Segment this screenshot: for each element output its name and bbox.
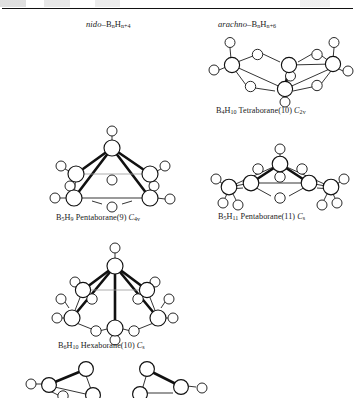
caption-b6h10-name: Hexaborane(10)	[81, 341, 135, 350]
hydrogen-terminal	[209, 65, 219, 75]
hydrogen-terminal	[275, 144, 285, 154]
boron-atom	[79, 362, 94, 377]
hydrogen-terminal	[211, 174, 221, 184]
hydrogen-terminal	[218, 198, 228, 208]
hydrogen-terminal	[168, 313, 178, 323]
structure-b5h9	[46, 126, 178, 216]
caption-b5h9: B5H9 Pentaborane(9) C4v	[56, 213, 140, 222]
structure-b6h10	[50, 242, 180, 342]
hydrogen-terminal	[165, 194, 175, 204]
structure-bottom-left-partial	[22, 362, 117, 398]
boron-atom	[133, 387, 148, 398]
hydrogen-terminal	[225, 38, 235, 48]
caption-b5h11-pointgroup-sub: s	[303, 215, 305, 221]
caption-b5h9-h-sub: 9	[71, 216, 74, 222]
hydrogen-bridge	[129, 326, 139, 336]
hydrogen-terminal	[107, 126, 117, 136]
scan-artifact	[0, 0, 355, 7]
boron-atom	[140, 362, 155, 377]
boron-atom	[107, 320, 123, 336]
caption-b6h10-h-sub: 10	[73, 344, 79, 350]
hydrogen-terminal	[26, 379, 36, 389]
hydrogen-bridge	[245, 81, 255, 91]
caption-b4h10-pointgroup-sub: 2v	[300, 109, 306, 115]
caption-b6h10-pointgroup-sub: s	[142, 344, 144, 350]
hydrogen-terminal	[160, 161, 170, 171]
structure-bottom-right-partial	[122, 362, 217, 398]
boron-atom	[174, 380, 189, 395]
column-heading-nido: nido–BnHn+4	[86, 19, 131, 29]
hydrogen-terminal	[317, 200, 327, 210]
boron-atom	[301, 175, 317, 191]
boron-atom	[243, 175, 259, 191]
caption-b5h11: B5H11 Pentaborane(11) Cs	[218, 212, 305, 221]
boron-atom	[86, 388, 101, 398]
structure-b4h10	[206, 34, 351, 104]
boron-atom	[142, 166, 158, 182]
boron-atom	[281, 57, 296, 72]
hydrogen-terminal	[332, 198, 342, 208]
hydrogen-bridge	[275, 172, 285, 182]
hydrogen-bridge	[275, 193, 285, 203]
caption-b4h10-name: Tetraborane(10)	[239, 106, 292, 115]
hydrogen-bridge	[312, 80, 322, 90]
boron-atom	[75, 282, 90, 297]
hydrogen-bridge	[107, 175, 117, 185]
hydrogen-terminal	[56, 161, 66, 171]
column-heading-nido-prefix: nido	[86, 19, 102, 29]
boron-atom	[142, 190, 158, 206]
hydrogen-terminal	[50, 193, 60, 203]
column-heading-arachno-h-sub: n+6	[267, 23, 277, 29]
hydrogen-terminal	[197, 383, 207, 393]
column-heading-arachno-prefix: arachno	[218, 19, 247, 29]
boron-atom	[42, 378, 57, 393]
boron-atom	[68, 166, 84, 182]
boron-atom	[139, 282, 154, 297]
hydrogen-bridge	[252, 49, 262, 59]
caption-b5h11-h-sub: 11	[233, 215, 239, 221]
hydrogen-terminal	[233, 200, 243, 210]
caption-b5h9-pointgroup-sub: 4v	[134, 216, 140, 222]
hydrogen-bridge	[312, 49, 322, 59]
boron-atom	[150, 310, 166, 326]
hydrogen-terminal	[56, 294, 66, 304]
caption-b4h10: B4H10 Tetraborane(10) C2v	[216, 106, 306, 115]
hydrogen-bridge	[91, 326, 101, 336]
boron-atom	[325, 56, 340, 71]
column-heading-nido-h-sub: n+4	[121, 23, 131, 29]
boron-atom	[221, 179, 237, 195]
hydrogen-bridge	[58, 391, 68, 398]
hydrogen-terminal	[52, 313, 62, 323]
hydrogen-terminal	[164, 294, 174, 304]
hydrogen-bridge	[107, 202, 117, 212]
caption-b6h10: B6H10 Hexaborane(10) Cs	[58, 341, 145, 350]
boron-atom	[323, 179, 339, 195]
boron-atom	[66, 190, 82, 206]
hydrogen-terminal	[329, 38, 339, 48]
hydrogen-terminal	[110, 243, 120, 253]
caption-b4h10-h-sub: 10	[231, 109, 237, 115]
structure-b5h11	[209, 143, 351, 215]
header-rule	[2, 8, 353, 9]
hydrogen-terminal	[343, 66, 353, 76]
boron-atom-apex	[272, 156, 288, 172]
hydrogen-bridge	[297, 164, 307, 174]
boron-atom	[224, 57, 239, 72]
caption-b5h11-name: Pentaborane(11)	[241, 212, 296, 221]
boron-atom	[277, 81, 292, 96]
boron-atom-apex	[107, 258, 123, 274]
hydrogen-terminal	[339, 174, 349, 184]
column-heading-arachno: arachno–BnHn+6	[218, 19, 276, 29]
boron-atom-apex	[104, 140, 120, 156]
hydrogen-bridge	[253, 164, 263, 174]
boron-atom	[64, 310, 80, 326]
caption-b5h9-name: Pentaborane(9)	[76, 213, 127, 222]
